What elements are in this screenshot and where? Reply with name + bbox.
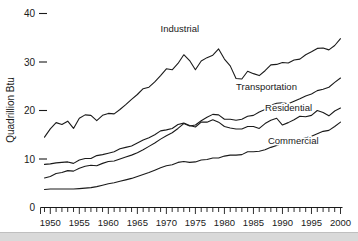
y-tick-label: 30 bbox=[24, 57, 36, 68]
x-tick-label: 1985 bbox=[243, 217, 264, 228]
x-tick-label: 2000 bbox=[330, 217, 351, 228]
y-axis-title: Quadrillion Btu bbox=[5, 77, 16, 143]
x-axis-group bbox=[41, 208, 343, 215]
series-label-transportation: Transportation bbox=[236, 81, 297, 92]
series-line-group bbox=[45, 39, 341, 190]
series-label-group: IndustrialIndustrialTransportationTransp… bbox=[161, 23, 319, 147]
series-line-commercial bbox=[45, 122, 341, 189]
x-tick-label: 1965 bbox=[127, 217, 148, 228]
y-tick-label: 20 bbox=[24, 105, 36, 116]
chart-figure: Quadrillion Btu 010203040 19501955196019… bbox=[0, 0, 358, 241]
x-tick-label: 1975 bbox=[185, 217, 206, 228]
series-label-industrial: Industrial bbox=[161, 23, 200, 34]
x-tick-label: 1990 bbox=[272, 217, 293, 228]
series-label-residential: Residential bbox=[265, 102, 312, 113]
x-tick-label: 1950 bbox=[40, 217, 61, 228]
x-tick-label: 1995 bbox=[301, 217, 322, 228]
x-tick-label: 1980 bbox=[214, 217, 235, 228]
y-axis-title-group: Quadrillion Btu bbox=[5, 77, 16, 143]
y-tick-label: 10 bbox=[24, 154, 36, 165]
x-tick-label: 1970 bbox=[156, 217, 177, 228]
y-tick-label: 40 bbox=[24, 8, 36, 19]
x-tick-label: 1955 bbox=[69, 217, 90, 228]
y-tick-label: 0 bbox=[29, 202, 35, 213]
x-tick-label-group: 1950195519601965197019751980198519901995… bbox=[40, 217, 351, 228]
x-tick-label: 1960 bbox=[98, 217, 119, 228]
series-line-transportation bbox=[45, 78, 341, 178]
y-tick-group: 010203040 bbox=[24, 8, 47, 213]
chart-plot-area: Quadrillion Btu 010203040 19501955196019… bbox=[0, 0, 358, 241]
bottom-strip bbox=[0, 232, 358, 241]
series-label-commercial: Commercial bbox=[268, 135, 319, 146]
